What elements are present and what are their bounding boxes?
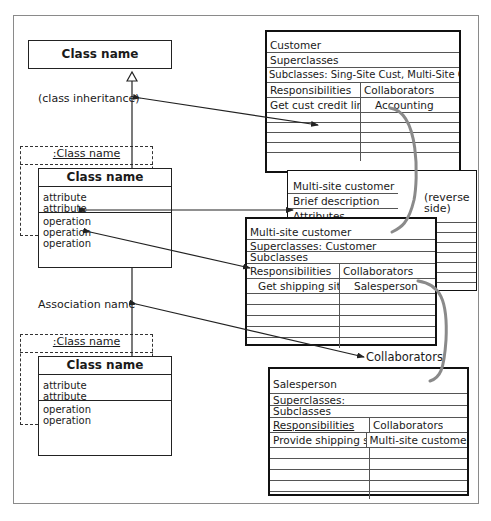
object-1-attributes: attribute attribute <box>39 187 171 213</box>
object-1-class-box: Class name attribute attribute operation… <box>38 168 172 268</box>
crc-row: Get cust credit limit Accounting <box>267 98 459 113</box>
object-1-operations: operation operation operation <box>39 213 171 252</box>
object-2-attributes: attribute attribute <box>39 375 171 401</box>
association-label: Association name <box>38 298 135 311</box>
crc-row: Provide shipping site Multi-site custome… <box>270 433 467 448</box>
operation: operation <box>43 415 167 426</box>
object-2-operations: operation operation <box>39 401 171 429</box>
object-1-instance-divider <box>20 164 153 165</box>
crc-class-name: Salesperson <box>270 377 467 394</box>
crc-class-name: Multi-site customer <box>247 225 435 240</box>
crc-class-name: Customer <box>267 38 459 53</box>
crc-empty-row <box>267 113 459 123</box>
attribute: attribute <box>43 192 167 203</box>
collaborators-label: Collaborators <box>366 350 443 364</box>
operation: operation <box>43 216 167 227</box>
operation: operation <box>43 404 167 415</box>
crc-empty-row <box>270 481 467 492</box>
crc-subclasses: Subclasses: Sing-Site Cust, Multi-Site C… <box>267 68 459 83</box>
crc-header-row: Responsibilities Collaborators <box>270 418 467 433</box>
brief-description: Brief description <box>288 194 398 209</box>
crc-empty-row <box>247 338 435 348</box>
crc-card-multi-site-customer: Multi-site customer Superclasses: Custom… <box>245 217 437 346</box>
crc-empty-row <box>247 316 435 327</box>
responsibility: Get cust credit limit <box>267 98 361 112</box>
operation: operation <box>43 238 167 249</box>
crc-header-row: Responsibilities Collaborators <box>247 264 435 279</box>
crc-superclasses: Superclasses: <box>270 394 467 406</box>
crc-empty-row <box>270 470 467 481</box>
crc-card-customer: Customer Superclasses Subclasses: Sing-S… <box>265 30 461 173</box>
crc-empty-row <box>270 448 467 459</box>
crc-empty-row <box>267 133 459 143</box>
inheritance-label: (class inheritance) <box>38 92 140 105</box>
crc-empty-row <box>247 305 435 316</box>
object-2-instance-label: :Class name <box>20 335 153 348</box>
object-2-instance-divider <box>20 352 153 353</box>
responsibilities-header: Responsibilities <box>247 264 340 278</box>
responsibilities-header: Responsibilities <box>270 418 370 432</box>
crc-empty-row <box>270 492 467 499</box>
responsibility: Provide shipping site <box>270 433 367 447</box>
collaborator: Accounting <box>361 98 434 112</box>
crc-empty-row <box>267 123 459 133</box>
crc-superclasses: Superclasses <box>267 53 459 68</box>
crc-empty-row <box>247 294 435 305</box>
collaborator: Multi-site customer <box>367 433 468 447</box>
collaborators-header: Collaborators <box>340 264 413 278</box>
object-1-instance-label: :Class name <box>20 147 153 160</box>
crc-subclasses: Subclasses <box>270 406 467 418</box>
crc-empty-row <box>267 153 459 161</box>
collaborators-header: Collaborators <box>361 83 434 97</box>
crc-superclasses: Superclasses: Customer <box>247 240 435 252</box>
object-2-class-box: Class name attribute attribute operation… <box>38 356 172 456</box>
crc-empty-row <box>247 327 435 338</box>
crc-row: Get shipping site Salesperson <box>247 279 435 294</box>
top-class-box: Class name <box>28 40 172 69</box>
operation: operation <box>43 227 167 238</box>
reverse-side-note: (reverse side) <box>424 192 470 214</box>
object-1-class-name: Class name <box>39 169 171 187</box>
collaborator: Salesperson <box>340 279 418 293</box>
crc-empty-row <box>267 143 459 153</box>
attribute: attribute <box>43 380 167 391</box>
crc-subclasses: Subclasses <box>247 252 435 264</box>
object-2-class-name: Class name <box>39 357 171 375</box>
crc-card-salesperson: Salesperson Superclasses: Subclasses Res… <box>268 367 469 496</box>
top-class-name: Class name <box>29 41 171 67</box>
responsibility: Get shipping site <box>247 279 340 293</box>
collaborators-header: Collaborators <box>370 418 443 432</box>
crc-empty-row <box>270 459 467 470</box>
reverse-card-lines <box>436 213 476 283</box>
reverse-class-name: Multi-site customer <box>288 179 398 194</box>
crc-header-row: Responsibilities Collaborators <box>267 83 459 98</box>
responsibilities-header: Responsibilities <box>267 83 361 97</box>
